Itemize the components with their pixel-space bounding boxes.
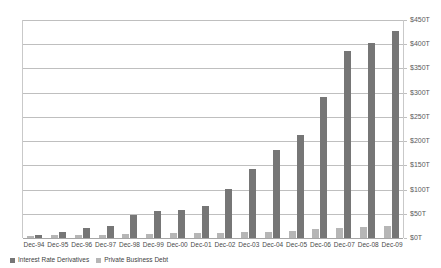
gridline (23, 238, 403, 239)
x-axis-label: Dec-99 (141, 240, 165, 252)
bar-private-business-debt (241, 232, 248, 238)
bar-interest-rate-derivatives (320, 97, 327, 238)
x-axis-label: Dec-04 (261, 240, 285, 252)
bar-private-business-debt (217, 233, 224, 238)
legend-label: Private Business Debt (104, 256, 168, 264)
bar-group (71, 20, 95, 238)
bar-private-business-debt (312, 229, 319, 238)
y-axis-tick-mark (404, 214, 407, 215)
bar-interest-rate-derivatives (59, 232, 66, 238)
y-axis-label: $100T (410, 186, 430, 194)
chart-legend: Interest Rate DerivativesPrivate Busines… (10, 256, 168, 264)
y-axis-label: $50T (410, 210, 426, 218)
bar-group (23, 20, 47, 238)
bar-interest-rate-derivatives (178, 210, 185, 238)
bar-private-business-debt (122, 234, 129, 238)
bar-private-business-debt (336, 228, 343, 238)
bar-interest-rate-derivatives (249, 169, 256, 238)
bar-group (379, 20, 403, 238)
bar-interest-rate-derivatives (130, 215, 137, 238)
bar-group (118, 20, 142, 238)
y-axis-label: $450T (410, 16, 430, 24)
x-axis: Dec-94Dec-95Dec-96Dec-97Dec-98Dec-99Dec-… (22, 240, 404, 252)
x-axis-label: Dec-95 (46, 240, 70, 252)
legend-swatch-icon (96, 258, 101, 263)
bar-interest-rate-derivatives (83, 228, 90, 238)
y-axis-tick-mark (404, 141, 407, 142)
y-axis-tick-mark (404, 68, 407, 69)
y-axis-label: $350T (410, 64, 430, 72)
bar-private-business-debt (265, 232, 272, 238)
bar-private-business-debt (99, 235, 106, 238)
bar-private-business-debt (194, 233, 201, 238)
bar-private-business-debt (289, 231, 296, 238)
bar-private-business-debt (146, 234, 153, 238)
bar-interest-rate-derivatives (344, 51, 351, 238)
x-axis-label: Dec-00 (165, 240, 189, 252)
x-axis-label: Dec-02 (213, 240, 237, 252)
bar-group (213, 20, 237, 238)
x-axis-label: Dec-03 (237, 240, 261, 252)
bar-group (284, 20, 308, 238)
y-axis-tick-mark (404, 238, 407, 239)
x-axis-label: Dec-07 (332, 240, 356, 252)
bar-private-business-debt (75, 235, 82, 238)
x-axis-label: Dec-01 (189, 240, 213, 252)
bar-chart: $0T$50T$100T$150T$200T$250T$300T$350T$40… (0, 0, 441, 268)
bar-group (94, 20, 118, 238)
y-axis-label: $250T (410, 113, 430, 121)
y-axis-label: $150T (410, 161, 430, 169)
bar-interest-rate-derivatives (202, 206, 209, 238)
y-axis-label: $300T (410, 89, 430, 97)
plot-area (22, 20, 404, 238)
x-axis-label: Dec-06 (309, 240, 333, 252)
bar-interest-rate-derivatives (392, 31, 399, 238)
bar-interest-rate-derivatives (273, 150, 280, 238)
bar-interest-rate-derivatives (297, 135, 304, 238)
bar-private-business-debt (27, 236, 34, 238)
bar-interest-rate-derivatives (368, 43, 375, 238)
legend-item[interactable]: Private Business Debt (96, 256, 168, 264)
x-axis-label: Dec-96 (70, 240, 94, 252)
bar-group (308, 20, 332, 238)
y-axis-tick-mark (404, 93, 407, 94)
bar-group (142, 20, 166, 238)
y-axis-label: $200T (410, 137, 430, 145)
y-axis-tick-mark (404, 165, 407, 166)
x-axis-label: Dec-94 (22, 240, 46, 252)
x-axis-label: Dec-05 (285, 240, 309, 252)
bar-group (166, 20, 190, 238)
x-axis-label: Dec-98 (118, 240, 142, 252)
x-axis-label: Dec-97 (94, 240, 118, 252)
y-axis-tick-mark (404, 190, 407, 191)
bar-interest-rate-derivatives (107, 226, 114, 238)
bar-group (356, 20, 380, 238)
bar-group (261, 20, 285, 238)
bar-interest-rate-derivatives (35, 235, 42, 238)
bar-interest-rate-derivatives (154, 211, 161, 238)
bar-group (47, 20, 71, 238)
y-axis: $0T$50T$100T$150T$200T$250T$300T$350T$40… (404, 20, 441, 238)
x-axis-label: Dec-09 (380, 240, 404, 252)
bar-interest-rate-derivatives (225, 189, 232, 238)
legend-swatch-icon (10, 258, 15, 263)
bars-layer (23, 20, 403, 238)
x-axis-label: Dec-08 (356, 240, 380, 252)
bar-private-business-debt (360, 227, 367, 238)
bar-private-business-debt (384, 226, 391, 238)
y-axis-tick-mark (404, 44, 407, 45)
bar-private-business-debt (51, 235, 58, 238)
legend-label: Interest Rate Derivatives (18, 256, 89, 264)
legend-item[interactable]: Interest Rate Derivatives (10, 256, 89, 264)
bar-private-business-debt (170, 233, 177, 238)
bar-group (189, 20, 213, 238)
bar-group (237, 20, 261, 238)
y-axis-tick-mark (404, 117, 407, 118)
y-axis-label: $0T (410, 234, 422, 242)
y-axis-tick-mark (404, 20, 407, 21)
y-axis-label: $400T (410, 40, 430, 48)
bar-group (332, 20, 356, 238)
